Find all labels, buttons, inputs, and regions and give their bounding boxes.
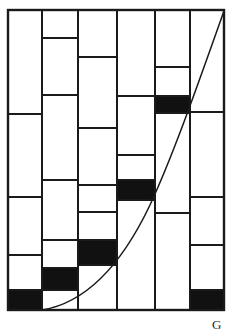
- cell-c3-r2-empty: [78, 57, 117, 128]
- cell-c4-r1-empty: [117, 10, 155, 96]
- cell-c1-r3-empty: [8, 197, 42, 255]
- column-cell-diagram: [0, 0, 230, 334]
- column-2: [42, 38, 78, 310]
- figure-label: G: [212, 317, 222, 333]
- cell-c2-r5-filled: [42, 268, 78, 290]
- cell-c3-r1-empty: [78, 10, 117, 57]
- cell-c2-r3-empty: [42, 180, 78, 240]
- cell-c1-r4-empty: [8, 255, 42, 290]
- cell-c4-r4-filled: [117, 180, 155, 200]
- cell-c4-r3-empty: [117, 155, 155, 180]
- cell-c5-r5-empty: [155, 213, 190, 310]
- cell-c2-r4-empty: [42, 240, 78, 268]
- cell-c6-r2-empty: [190, 112, 224, 197]
- cell-c1-r1-empty: [8, 10, 42, 114]
- cell-c1-r5-filled: [8, 290, 42, 310]
- cell-c5-r1-empty: [155, 10, 190, 67]
- cell-c1-r2-empty: [8, 114, 42, 197]
- column-3: [78, 10, 117, 310]
- column-5: [155, 10, 190, 310]
- column-4: [117, 10, 155, 310]
- cell-c5-r3-filled: [155, 96, 190, 113]
- cell-c5-r4-empty: [155, 113, 190, 213]
- cell-c4-r5-empty: [117, 200, 155, 310]
- columns-group: [8, 10, 224, 310]
- cell-c2-r1-empty: [42, 38, 78, 95]
- figure-root: G: [0, 0, 230, 334]
- cell-c3-r3-empty: [78, 128, 117, 185]
- cell-c5-r2-empty: [155, 67, 190, 96]
- cell-c3-r6-filled: [78, 240, 117, 265]
- cell-c3-r5-empty: [78, 212, 117, 240]
- column-6: [190, 10, 224, 310]
- cell-c3-r7-empty: [78, 265, 117, 310]
- cell-c3-r4-empty: [78, 185, 117, 212]
- cell-c6-r4-empty: [190, 245, 224, 290]
- cell-c4-r2-empty: [117, 96, 155, 155]
- cell-c6-r5-filled: [190, 290, 224, 310]
- cell-c2-r2-empty: [42, 95, 78, 180]
- cell-c6-r3-empty: [190, 197, 224, 245]
- column-1: [8, 10, 42, 310]
